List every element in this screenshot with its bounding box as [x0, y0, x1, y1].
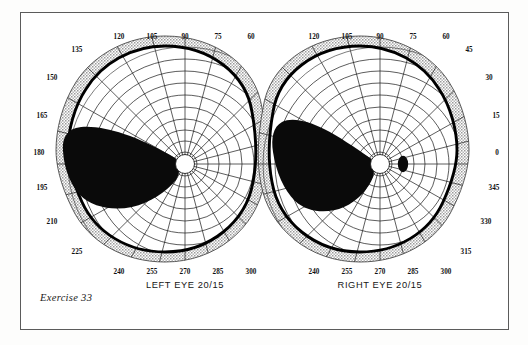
exercise-caption: Exercise 33	[40, 292, 92, 303]
left-label-195: 195	[37, 184, 48, 192]
right-label-120: 120	[309, 33, 320, 41]
right-label-240: 240	[309, 268, 320, 276]
right-eye-caption: RIGHT EYE 20/15	[338, 280, 423, 290]
left-eye-caption: LEFT EYE 20/15	[146, 280, 224, 290]
visual-field-plate: 120 105 90 75 60 135 150 165 180 195 210…	[20, 12, 509, 330]
left-label-255: 255	[147, 268, 158, 276]
left-label-300: 300	[246, 268, 257, 276]
right-label-255: 255	[342, 268, 353, 276]
right-label-75: 75	[409, 33, 417, 41]
right-label-30: 30	[485, 74, 493, 82]
right-label-60: 60	[442, 33, 450, 41]
right-label-345: 345	[489, 184, 500, 192]
right-label-0: 0	[495, 149, 499, 157]
right-fovea	[371, 155, 390, 174]
left-label-135: 135	[72, 46, 83, 54]
left-label-105: 105	[147, 33, 158, 41]
right-label-105: 105	[342, 33, 353, 41]
right-label-270: 270	[375, 268, 386, 276]
right-label-330: 330	[481, 218, 492, 226]
right-label-15: 15	[492, 112, 500, 120]
visual-field-charts-svg: 120 105 90 75 60 135 150 165 180 195 210…	[20, 12, 509, 330]
visual-field-figure: 120 105 90 75 60 135 150 165 180 195 210…	[0, 0, 528, 345]
left-label-75: 75	[214, 33, 222, 41]
right-label-315: 315	[461, 248, 472, 256]
left-label-165: 165	[37, 112, 48, 120]
left-label-225: 225	[72, 248, 83, 256]
left-fovea	[176, 155, 195, 174]
left-label-180: 180	[34, 149, 45, 157]
right-eye-chart: 120 105 90 75 60 45 30 15 0 345 330 315 …	[232, 16, 509, 312]
left-label-90: 90	[181, 33, 189, 41]
left-label-240: 240	[114, 268, 125, 276]
right-label-45: 45	[465, 46, 473, 54]
right-label-285: 285	[408, 268, 419, 276]
right-label-300: 300	[441, 268, 452, 276]
right-label-90: 90	[376, 33, 384, 41]
left-label-120: 120	[114, 33, 125, 41]
right-physiological-blind-spot	[398, 156, 408, 172]
left-label-285: 285	[213, 268, 224, 276]
left-label-60: 60	[247, 33, 255, 41]
left-label-270: 270	[180, 268, 191, 276]
left-label-150: 150	[47, 74, 58, 82]
left-label-210: 210	[47, 218, 58, 226]
